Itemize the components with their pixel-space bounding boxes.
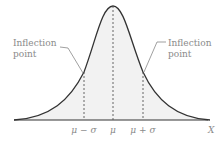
left-annotation-line2: point: [13, 49, 37, 59]
tick-label-mu: μ: [110, 125, 116, 135]
left-leader-line: [60, 47, 83, 73]
tick-label-mu-minus-sigma: μ − σ: [71, 125, 97, 135]
right-annotation-line2: point: [168, 49, 192, 59]
axis-variable-label: X: [207, 125, 215, 135]
right-leader-line: [144, 42, 166, 72]
normal-curve-diagram: Inflection point Inflection point μ − σ …: [0, 0, 224, 144]
left-annotation-line1: Inflection: [13, 38, 57, 48]
tick-label-mu-plus-sigma: μ + σ: [130, 125, 156, 135]
curve-fill: [14, 6, 210, 120]
right-annotation-line1: Inflection: [168, 38, 212, 48]
